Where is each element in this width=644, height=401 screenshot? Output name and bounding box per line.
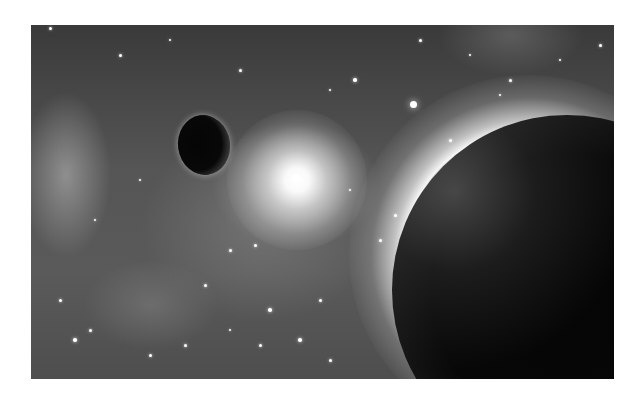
star xyxy=(410,101,417,108)
star xyxy=(169,39,171,41)
space-image xyxy=(31,25,614,379)
star xyxy=(509,79,512,82)
star xyxy=(229,329,231,331)
star xyxy=(319,299,322,302)
star xyxy=(204,284,207,287)
star xyxy=(268,308,272,312)
star xyxy=(119,54,122,57)
small-moon xyxy=(174,112,234,179)
star xyxy=(298,338,302,342)
star xyxy=(89,329,92,332)
star xyxy=(419,39,422,42)
star xyxy=(379,239,382,242)
star xyxy=(184,344,187,347)
star xyxy=(139,179,141,181)
star xyxy=(149,354,152,357)
star xyxy=(254,244,257,247)
star xyxy=(292,174,300,182)
star xyxy=(94,219,96,221)
star xyxy=(73,338,77,342)
star xyxy=(449,139,452,142)
star xyxy=(229,249,232,252)
star xyxy=(469,54,471,56)
star xyxy=(394,214,397,217)
star xyxy=(49,27,52,30)
star xyxy=(329,359,332,362)
star xyxy=(559,59,561,61)
star xyxy=(259,344,262,347)
star xyxy=(329,89,331,91)
star xyxy=(353,78,357,82)
star xyxy=(59,299,62,302)
star xyxy=(239,69,242,72)
star xyxy=(599,44,602,47)
